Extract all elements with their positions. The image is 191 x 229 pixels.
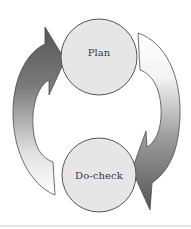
plan-label: Plan <box>88 47 111 58</box>
left-cycle-arrow-icon <box>13 27 65 195</box>
do-check-label: Do-check <box>75 170 123 181</box>
plan-do-check-cycle-diagram <box>0 0 191 229</box>
bottom-divider <box>0 225 191 227</box>
right-cycle-arrow-icon <box>132 33 180 210</box>
